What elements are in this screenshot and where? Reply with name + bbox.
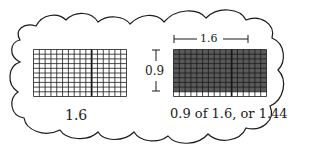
- left-caption: 1.6: [65, 107, 87, 123]
- height-label: 0.9: [145, 64, 164, 78]
- width-label: 1.6: [200, 32, 218, 45]
- right-caption: 0.9 of 1.6, or 1.44: [170, 106, 288, 121]
- right-grid-shaded: [173, 49, 267, 97]
- left-grid-1-6: [33, 49, 127, 97]
